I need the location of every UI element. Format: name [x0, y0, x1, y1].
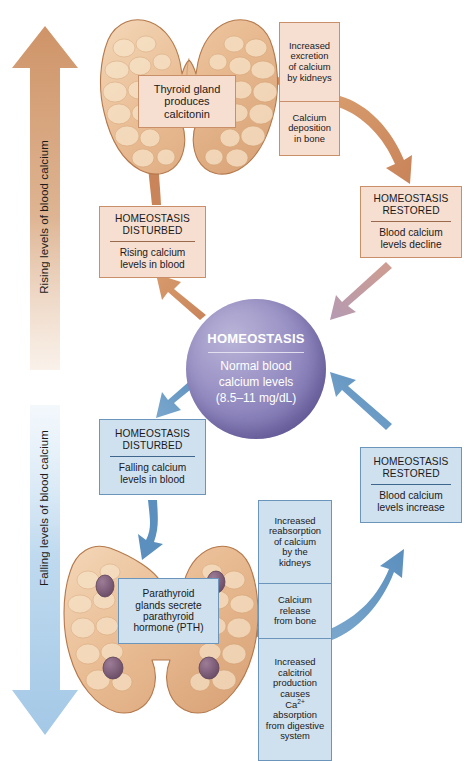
homeostasis-title: HOMEOSTASIS [207, 331, 304, 346]
divider [110, 456, 195, 457]
effect-cell-increased-reabsorption: Increased reabsorption of calcium by the… [259, 501, 331, 583]
status-title-upper-restored: HOMEOSTASIS RESTORED [373, 193, 448, 216]
callout-thyroid-text: Thyroid gland produces calcitonin [139, 76, 235, 127]
falling-trend-label: Falling levels of blood calcium [38, 430, 50, 586]
arrow-effects-to-restored [338, 96, 412, 184]
status-box-restored-lower: HOMEOSTASIS RESTORED Blood calcium level… [360, 447, 462, 523]
effect-cell-calcium-release: Calcium release from bone [259, 583, 331, 638]
arrow-effects-to-restored-lower [330, 549, 404, 640]
status-title-lower-restored: HOMEOSTASIS RESTORED [373, 456, 448, 479]
arrow-restored-to-homeostasis-lower [330, 372, 392, 430]
status-box-restored-upper: HOMEOSTASIS RESTORED Blood calcium level… [360, 186, 462, 258]
callout-parathyroid-glands: Parathyroid glands secrete parathyroid h… [118, 578, 219, 644]
effects-box-upper: Increased excretion of calcium by kidney… [279, 22, 340, 156]
diagram-canvas: Rising levels of blood calcium Falling l… [0, 0, 468, 761]
rising-trend-label: Rising levels of blood calcium [38, 140, 50, 294]
divider [208, 352, 304, 353]
effect-cell-calcium-deposition: Calcium deposition in bone [280, 101, 339, 155]
homeostasis-circle: HOMEOSTASIS Normal blood calcium levels … [186, 299, 326, 439]
effects-box-lower: Increased reabsorption of calcium by the… [258, 500, 332, 761]
divider [371, 221, 451, 222]
arrow-homeostasis-to-disturbed-upper [156, 274, 206, 320]
status-body-upper-disturbed: Rising calcium levels in blood [120, 247, 186, 271]
arrow-restored-to-homeostasis-upper [330, 262, 392, 320]
status-body-upper-restored: Blood calcium levels decline [379, 227, 442, 251]
status-body-lower-restored: Blood calcium levels increase [377, 490, 444, 514]
callout-thyroid-gland: Thyroid gland produces calcitonin [138, 75, 236, 128]
divider [110, 241, 195, 242]
homeostasis-body: Normal blood calcium levels (8.5–11 mg/d… [216, 359, 297, 407]
status-box-disturbed-lower: HOMEOSTASIS DISTURBED Falling calcium le… [99, 419, 206, 495]
arrow-disturbed-to-parathyroid [138, 500, 163, 560]
effect-cell-increased-excretion: Increased excretion of calcium by kidney… [280, 23, 339, 101]
effect-cell-increased-calcitriol: Increased calcitriol production causes C… [259, 638, 331, 760]
arrow-parathyroid-to-effects [214, 620, 264, 642]
status-title-upper-disturbed: HOMEOSTASIS DISTURBED [115, 213, 190, 236]
status-body-lower-disturbed: Falling calcium levels in blood [119, 462, 186, 486]
arrow-disturbed-to-thyroid [142, 128, 170, 205]
divider [371, 484, 451, 485]
status-title-lower-disturbed: HOMEOSTASIS DISTURBED [115, 428, 190, 451]
callout-parathyroid-text: Parathyroid glands secrete parathyroid h… [119, 579, 218, 643]
arrow-thyroid-to-effects [228, 70, 284, 92]
status-box-disturbed-upper: HOMEOSTASIS DISTURBED Rising calcium lev… [99, 206, 206, 278]
